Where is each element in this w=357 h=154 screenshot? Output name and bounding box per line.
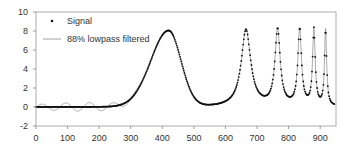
signal-dot xyxy=(249,54,251,56)
signal-dot xyxy=(154,50,156,52)
signal-dot xyxy=(311,71,313,73)
signal-dot xyxy=(184,72,186,74)
signal-dot xyxy=(244,30,246,32)
x-tick-label: 500 xyxy=(186,133,201,143)
signal-dot xyxy=(238,76,240,78)
x-tick-label: 300 xyxy=(123,133,138,143)
signal-dot xyxy=(282,83,284,85)
signal-dot xyxy=(149,63,151,65)
signal-dot xyxy=(180,61,182,63)
signal-dot xyxy=(314,56,316,58)
signal-dot xyxy=(250,59,252,61)
signal-dot xyxy=(187,84,189,86)
signal-dot xyxy=(153,53,155,55)
signal-dot xyxy=(240,65,242,67)
signal-dot xyxy=(187,82,189,84)
signal-dot xyxy=(304,88,306,90)
signal-dot xyxy=(235,88,237,90)
y-tick-label: 4 xyxy=(23,64,28,74)
signal-dot xyxy=(274,61,276,63)
axes: -202468100100200300400500600700800900 xyxy=(18,7,336,143)
signal-dot xyxy=(315,71,317,73)
signal-dot xyxy=(327,85,329,87)
signal-dot xyxy=(324,55,326,57)
signal-dot xyxy=(313,26,315,28)
signal-dot xyxy=(295,85,297,87)
signal-dot xyxy=(269,90,271,92)
y-tick-label: 0 xyxy=(23,102,28,112)
signal-dot xyxy=(251,68,253,70)
legend-label-signal: Signal xyxy=(67,16,92,26)
y-tick-label: 8 xyxy=(23,26,28,36)
signal-dot xyxy=(240,60,242,62)
signal-dot xyxy=(272,79,274,81)
plot-frame xyxy=(36,12,336,126)
signal-dot xyxy=(279,52,281,54)
signal-dot xyxy=(252,72,254,74)
signal-dot xyxy=(182,65,184,67)
signal-dot xyxy=(241,55,243,57)
signal-dot xyxy=(151,58,153,60)
signal-dot xyxy=(328,92,330,94)
signal-dot xyxy=(326,74,328,76)
signal-dot xyxy=(300,38,302,40)
signal-dot xyxy=(180,58,182,60)
signal-dot xyxy=(175,43,177,45)
signal-dot xyxy=(179,54,181,56)
signal-dot xyxy=(309,92,311,94)
signal-dot xyxy=(300,52,302,54)
signal-dot xyxy=(303,85,305,87)
signal-dot xyxy=(271,83,273,85)
signal-dot xyxy=(177,47,179,49)
signal-dot xyxy=(321,93,323,95)
signal-dot xyxy=(176,45,178,47)
signal-dot xyxy=(254,83,256,85)
signal-dot xyxy=(325,32,327,34)
signal-dot xyxy=(147,67,149,69)
signal-dot xyxy=(314,37,316,39)
signal-dot xyxy=(323,73,325,75)
signal-dot xyxy=(173,37,175,39)
signal-dot xyxy=(333,103,335,105)
signal-dot xyxy=(281,79,283,81)
signal-dot xyxy=(310,86,312,88)
signal-dot xyxy=(304,91,306,93)
signal-dot xyxy=(181,63,183,65)
signal-dot xyxy=(329,98,331,100)
signal-dot xyxy=(242,44,244,46)
signal-dot xyxy=(182,68,184,70)
y-tick-label: 10 xyxy=(18,7,28,17)
signal-dot xyxy=(316,87,318,89)
signal-dot xyxy=(242,49,244,51)
signal-dot xyxy=(280,68,282,70)
signal-dot xyxy=(317,91,319,93)
signal-dot xyxy=(152,54,154,56)
signal-dot xyxy=(243,38,245,40)
signal-dot xyxy=(239,69,241,71)
signal-dot xyxy=(186,80,188,82)
signal-dot xyxy=(278,33,280,35)
signal-dot xyxy=(297,52,299,54)
signal-dot xyxy=(295,80,297,82)
signal-dot xyxy=(298,38,300,40)
signal-dot xyxy=(299,28,301,30)
legend-dot-icon xyxy=(51,20,54,23)
signal-dot xyxy=(237,82,239,84)
signal-dot xyxy=(249,49,251,51)
signal-dot xyxy=(174,39,176,41)
signal-dot xyxy=(148,64,150,66)
signal-dot xyxy=(316,81,318,83)
y-tick-label: 2 xyxy=(23,83,28,93)
signal-dot xyxy=(252,75,254,77)
signal-dot xyxy=(275,52,277,54)
signal-dot xyxy=(273,68,275,70)
signal-dot xyxy=(237,79,239,81)
signal-dot xyxy=(236,84,238,86)
signal-dot xyxy=(247,38,249,40)
signal-dot xyxy=(283,86,285,88)
signal-dot xyxy=(302,81,304,83)
signal-dot xyxy=(323,84,325,86)
legend: Signal 88% lowpass filtered xyxy=(43,16,150,44)
signal-dot xyxy=(177,49,179,51)
signal-dot xyxy=(309,90,311,92)
